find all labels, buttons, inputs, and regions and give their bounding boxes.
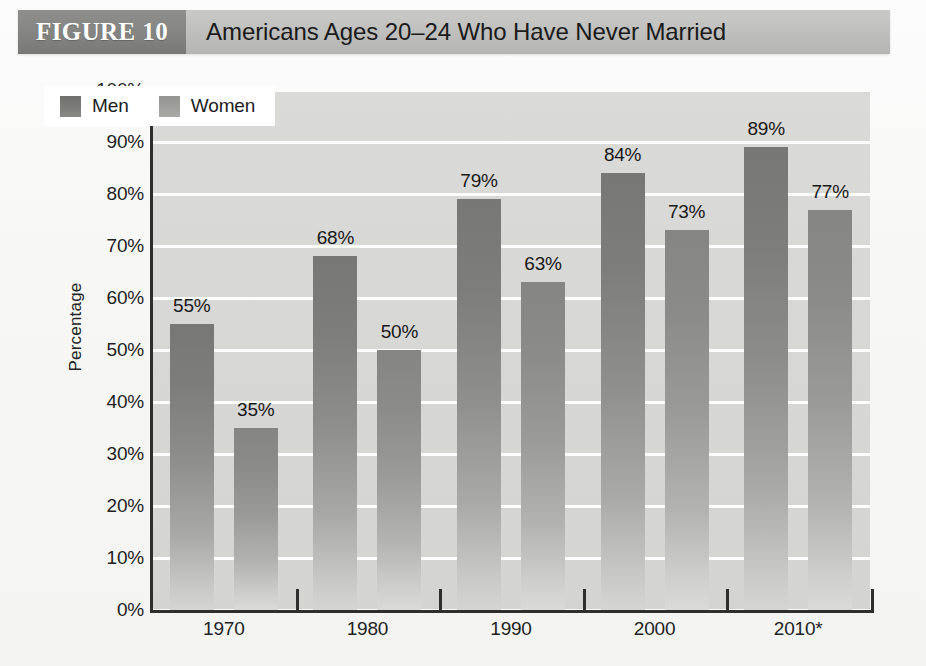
x-axis-tick [439,589,442,613]
bar-women-2010: 77% [808,210,852,610]
x-axis-tick-label-2000: 2000 [634,618,675,640]
chart-legend: Men Women [44,86,275,126]
y-axis-tick-label: 20% [26,495,144,517]
y-axis-tick-label: 40% [26,391,144,413]
x-axis-tick-label-1990: 1990 [490,618,531,640]
y-axis-tick-label: 50% [26,339,144,361]
bar-value-label: 55% [173,295,210,317]
legend-label-women: Women [191,95,256,117]
legend-entry-women: Women [159,95,256,117]
bar-women-1990: 63% [521,282,565,610]
legend-entry-men: Men [60,95,129,117]
bar-value-label: 50% [381,321,418,343]
bar-men-1980: 68% [313,256,357,610]
y-axis-tick-label: 60% [26,287,144,309]
figure-title-text: Americans Ages 20–24 Who Have Never Marr… [186,10,890,54]
x-axis-tick [726,589,729,613]
figure-number-label: FIGURE 10 [18,10,186,54]
x-axis-right-cap [871,589,874,613]
bar-value-label: 84% [604,144,641,166]
plot-area-wrapper: 55%35%68%50%79%63%84%73%89%77% [152,90,870,610]
bar-value-label: 77% [811,181,848,203]
bar-value-label: 68% [317,227,354,249]
legend-swatch-men-icon [60,96,81,117]
y-axis-tick-label: 90% [26,131,144,153]
bar-value-label: 73% [668,201,705,223]
y-axis-tick-label: 0% [26,599,144,621]
y-axis-tick-labels: 0%10%20%30%40%50%60%70%80%90%100% [18,62,144,640]
x-axis-tick [583,589,586,613]
y-axis-tick-label: 10% [26,547,144,569]
bar-value-label: 89% [747,118,784,140]
x-axis-line [150,610,874,613]
bar-value-label: 35% [237,399,274,421]
bar-value-label: 63% [524,253,561,275]
bar-men-2010: 89% [744,147,788,610]
bar-value-label: 79% [460,170,497,192]
bar-men-1970: 55% [170,324,214,610]
bar-women-1980: 50% [377,350,421,610]
bars-layer: 55%35%68%50%79%63%84%73%89%77% [152,90,870,610]
figure-title-bar: FIGURE 10 Americans Ages 20–24 Who Have … [18,10,890,54]
x-axis-tick-label-1980: 1980 [347,618,388,640]
x-axis-tick [296,589,299,613]
y-axis-tick-label: 30% [26,443,144,465]
x-axis-tick-label-2010: 2010* [774,618,823,640]
legend-label-men: Men [92,95,129,117]
x-axis-tick-label-1970: 1970 [203,618,244,640]
y-axis-line [150,88,153,612]
chart-container: Percentage 0%10%20%30%40%50%60%70%80%90%… [18,62,908,652]
bar-women-1970: 35% [234,428,278,610]
y-axis-tick-label: 80% [26,183,144,205]
bar-men-2000: 84% [601,173,645,610]
legend-swatch-women-icon [159,96,180,117]
figure-page: FIGURE 10 Americans Ages 20–24 Who Have … [0,0,926,666]
y-axis-tick-label: 70% [26,235,144,257]
bar-women-2000: 73% [665,230,709,610]
bar-men-1990: 79% [457,199,501,610]
